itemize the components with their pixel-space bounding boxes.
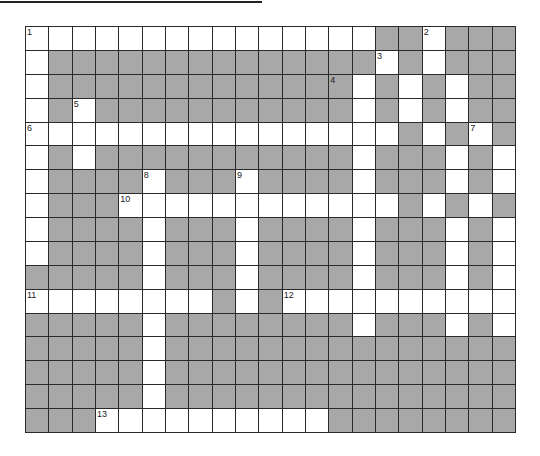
crossword-cell[interactable]: [399, 99, 421, 122]
crossword-cell[interactable]: [283, 194, 305, 217]
crossword-cell[interactable]: [353, 75, 375, 98]
crossword-cell[interactable]: [259, 27, 281, 50]
crossword-cell[interactable]: [306, 123, 328, 146]
crossword-cell[interactable]: [493, 218, 515, 241]
crossword-cell[interactable]: 6: [26, 123, 48, 146]
crossword-cell[interactable]: [423, 123, 445, 146]
crossword-cell[interactable]: [446, 218, 468, 241]
crossword-cell[interactable]: [73, 146, 95, 169]
crossword-cell[interactable]: [73, 290, 95, 313]
crossword-cell[interactable]: [26, 99, 48, 122]
crossword-cell[interactable]: [143, 266, 165, 289]
crossword-cell[interactable]: 2: [423, 27, 445, 50]
crossword-cell[interactable]: [119, 123, 141, 146]
crossword-cell[interactable]: [446, 290, 468, 313]
crossword-cell[interactable]: [166, 123, 188, 146]
crossword-cell[interactable]: [236, 123, 258, 146]
crossword-cell[interactable]: 10: [119, 194, 141, 217]
crossword-cell[interactable]: [446, 266, 468, 289]
crossword-cell[interactable]: [166, 27, 188, 50]
crossword-cell[interactable]: [236, 27, 258, 50]
crossword-cell[interactable]: [236, 290, 258, 313]
crossword-cell[interactable]: [143, 314, 165, 337]
crossword-cell[interactable]: [353, 123, 375, 146]
crossword-cell[interactable]: [26, 218, 48, 241]
crossword-cell[interactable]: [283, 409, 305, 432]
crossword-cell[interactable]: [189, 194, 211, 217]
crossword-cell[interactable]: [143, 337, 165, 360]
crossword-cell[interactable]: [143, 242, 165, 265]
crossword-cell[interactable]: [493, 170, 515, 193]
crossword-cell[interactable]: [143, 409, 165, 432]
crossword-cell[interactable]: [73, 27, 95, 50]
crossword-cell[interactable]: [236, 242, 258, 265]
crossword-cell[interactable]: [73, 123, 95, 146]
crossword-cell[interactable]: [469, 290, 491, 313]
crossword-cell[interactable]: [376, 123, 398, 146]
crossword-cell[interactable]: [143, 123, 165, 146]
crossword-cell[interactable]: [353, 266, 375, 289]
crossword-cell[interactable]: [259, 409, 281, 432]
crossword-cell[interactable]: [49, 123, 71, 146]
crossword-cell[interactable]: [26, 242, 48, 265]
crossword-cell[interactable]: [423, 194, 445, 217]
crossword-cell[interactable]: [26, 146, 48, 169]
crossword-cell[interactable]: [353, 27, 375, 50]
crossword-cell[interactable]: [213, 123, 235, 146]
crossword-cell[interactable]: [306, 290, 328, 313]
crossword-cell[interactable]: 1: [26, 27, 48, 50]
crossword-cell[interactable]: [143, 218, 165, 241]
crossword-cell[interactable]: [329, 194, 351, 217]
crossword-cell[interactable]: [353, 194, 375, 217]
crossword-cell[interactable]: [446, 242, 468, 265]
crossword-cell[interactable]: 9: [236, 170, 258, 193]
crossword-cell[interactable]: [26, 194, 48, 217]
crossword-cell[interactable]: [399, 290, 421, 313]
crossword-cell[interactable]: [213, 27, 235, 50]
crossword-cell[interactable]: [376, 194, 398, 217]
crossword-cell[interactable]: 13: [96, 409, 118, 432]
crossword-cell[interactable]: [143, 290, 165, 313]
crossword-cell[interactable]: [353, 314, 375, 337]
crossword-cell[interactable]: [213, 409, 235, 432]
crossword-cell[interactable]: [119, 27, 141, 50]
crossword-cell[interactable]: [493, 314, 515, 337]
crossword-cell[interactable]: [96, 123, 118, 146]
crossword-cell[interactable]: [446, 146, 468, 169]
crossword-cell[interactable]: [189, 290, 211, 313]
crossword-cell[interactable]: [26, 51, 48, 74]
crossword-cell[interactable]: [189, 123, 211, 146]
crossword-cell[interactable]: [26, 170, 48, 193]
crossword-cell[interactable]: [306, 409, 328, 432]
crossword-cell[interactable]: [306, 194, 328, 217]
crossword-cell[interactable]: [143, 385, 165, 408]
crossword-cell[interactable]: 8: [143, 170, 165, 193]
crossword-cell[interactable]: [446, 99, 468, 122]
crossword-cell[interactable]: [353, 99, 375, 122]
crossword-cell[interactable]: [119, 290, 141, 313]
crossword-cell[interactable]: [353, 146, 375, 169]
crossword-cell[interactable]: [166, 194, 188, 217]
crossword-cell[interactable]: [399, 75, 421, 98]
crossword-cell[interactable]: [213, 194, 235, 217]
crossword-cell[interactable]: [236, 218, 258, 241]
crossword-cell[interactable]: [353, 218, 375, 241]
crossword-cell[interactable]: [306, 27, 328, 50]
crossword-cell[interactable]: [119, 409, 141, 432]
crossword-cell[interactable]: 7: [469, 123, 491, 146]
crossword-cell[interactable]: 3: [376, 51, 398, 74]
crossword-cell[interactable]: [329, 290, 351, 313]
crossword-cell[interactable]: [189, 409, 211, 432]
crossword-cell[interactable]: [166, 409, 188, 432]
crossword-cell[interactable]: [329, 123, 351, 146]
crossword-cell[interactable]: [423, 290, 445, 313]
crossword-cell[interactable]: [376, 290, 398, 313]
crossword-cell[interactable]: [49, 27, 71, 50]
crossword-cell[interactable]: [259, 123, 281, 146]
crossword-cell[interactable]: [26, 75, 48, 98]
crossword-cell[interactable]: [493, 290, 515, 313]
crossword-cell[interactable]: [446, 314, 468, 337]
crossword-cell[interactable]: [353, 170, 375, 193]
crossword-cell[interactable]: [143, 194, 165, 217]
crossword-cell[interactable]: [259, 194, 281, 217]
